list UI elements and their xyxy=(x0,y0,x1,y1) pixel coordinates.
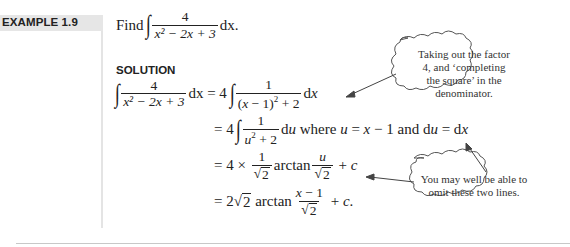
arrow-1 xyxy=(350,74,396,95)
annotation-text-2: You may well be able to omit these two l… xyxy=(410,173,538,199)
annotation-text-1: Taking out the factor 4, and ‘completing… xyxy=(398,48,530,100)
annotation-graphics xyxy=(0,0,570,247)
bottom-rule xyxy=(16,243,570,244)
arrow-3 xyxy=(370,177,414,182)
